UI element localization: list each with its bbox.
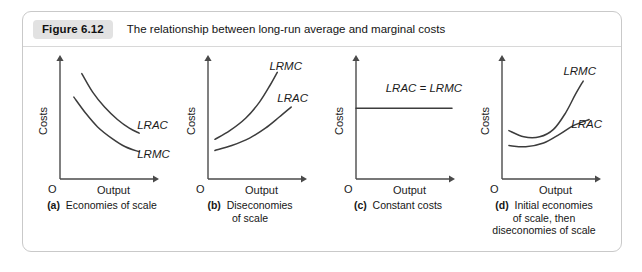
caption-line: Diseconomies — [221, 199, 293, 211]
y-axis-label: Costs — [37, 106, 49, 135]
y-axis-arrow-icon — [352, 55, 359, 61]
panel-b: CostsOOutputLRMCLRAC(b) Diseconomiesof s… — [175, 47, 325, 253]
y-axis-arrow-icon — [498, 55, 505, 61]
y-axis-label: Costs — [185, 106, 197, 135]
curve-lrac — [82, 74, 139, 134]
curve-lrac — [215, 107, 291, 150]
curve-label: LRAC = LRMC — [386, 82, 463, 94]
caption-line: Economies of scale — [60, 199, 157, 211]
caption-letter: (b) — [207, 199, 220, 211]
y-axis-arrow-icon — [56, 55, 63, 61]
origin-label: O — [196, 183, 205, 195]
curve-label: LRAC — [277, 92, 308, 104]
figure-container: Figure 6.12 The relationship between lon… — [22, 11, 622, 252]
caption-line: Constant costs — [367, 199, 442, 211]
panels-row: CostsOOutputLRACLRMC(a) Economies of sca… — [23, 47, 621, 253]
origin-label: O — [490, 183, 499, 195]
x-axis-arrow-icon — [153, 175, 159, 182]
origin-label: O — [344, 183, 353, 195]
y-axis-label: Costs — [479, 106, 491, 135]
x-axis-label: Output — [245, 184, 278, 196]
figure-number-badge: Figure 6.12 — [33, 20, 113, 39]
curve-lrmc — [74, 97, 139, 152]
caption-letter: (c) — [354, 199, 367, 211]
caption-letter: (a) — [47, 199, 60, 211]
panel-caption: (d) Initial economiesof scale, thendisec… — [469, 199, 619, 237]
curve-label: LRAC — [137, 119, 168, 131]
caption-line: Initial economies — [509, 199, 593, 211]
curve-label: LRMC — [563, 65, 596, 77]
curve-label: LRMC — [269, 60, 302, 72]
chart-c: CostsOOutputLRAC = LRMC — [323, 47, 473, 197]
x-axis-label: Output — [393, 184, 426, 196]
caption-line: of scale, then — [513, 212, 575, 224]
figure-header: Figure 6.12 The relationship between lon… — [23, 12, 621, 47]
caption-letter: (d) — [495, 199, 508, 211]
x-axis-arrow-icon — [449, 175, 455, 182]
x-axis-arrow-icon — [595, 175, 601, 182]
origin-label: O — [48, 183, 57, 195]
curve-label: LRMC — [137, 148, 170, 160]
panel-caption: (a) Economies of scale — [27, 199, 177, 212]
panel-d: CostsOOutputLRMCLRAC(d) Initial economie… — [469, 47, 619, 253]
chart-d: CostsOOutputLRMCLRAC — [469, 47, 619, 197]
curve-lrmc — [215, 72, 277, 139]
panel-caption: (c) Constant costs — [323, 199, 473, 212]
y-axis-arrow-icon — [204, 55, 211, 61]
chart-b: CostsOOutputLRMCLRAC — [175, 47, 325, 197]
panel-a: CostsOOutputLRACLRMC(a) Economies of sca… — [27, 47, 177, 253]
figure-title: The relationship between long-run averag… — [127, 23, 445, 35]
panel-c: CostsOOutputLRAC = LRMC(c) Constant cost… — [323, 47, 473, 253]
caption-line: diseconomies of scale — [492, 224, 595, 236]
x-axis-arrow-icon — [301, 175, 307, 182]
panel-caption: (b) Diseconomiesof scale — [175, 199, 325, 224]
x-axis-label: Output — [97, 184, 130, 196]
y-axis-label: Costs — [333, 106, 345, 135]
x-axis-label: Output — [539, 184, 572, 196]
caption-line: of scale — [232, 212, 268, 224]
chart-a: CostsOOutputLRACLRMC — [27, 47, 177, 197]
curve-label: LRAC — [571, 118, 602, 130]
